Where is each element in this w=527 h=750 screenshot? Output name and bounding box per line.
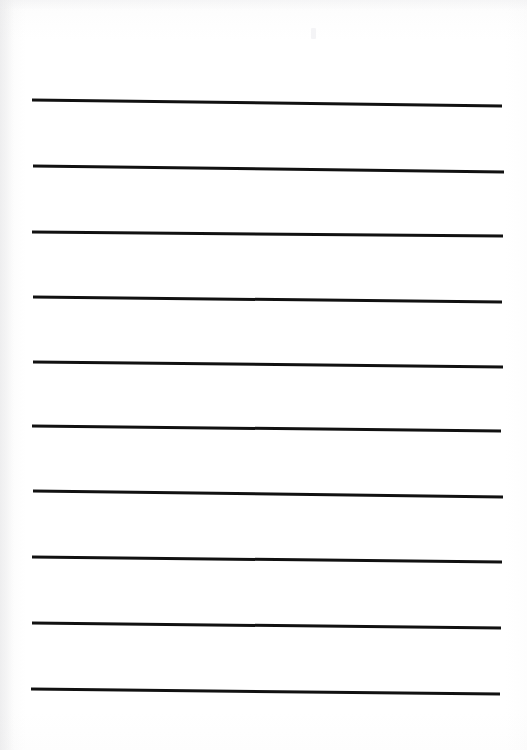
ruled-line	[31, 689, 500, 694]
ruled-line	[32, 426, 501, 431]
ruled-line	[32, 557, 502, 562]
ruled-lines-svg	[0, 0, 527, 750]
ruled-line	[32, 623, 501, 628]
ruled-line	[33, 297, 502, 302]
ruled-line	[33, 166, 504, 172]
ruled-line	[33, 362, 503, 367]
ruled-line	[32, 100, 502, 106]
ruled-line	[32, 232, 503, 236]
document-page	[0, 0, 527, 750]
ruled-lines-layer	[0, 0, 527, 750]
ruled-line	[33, 491, 503, 497]
